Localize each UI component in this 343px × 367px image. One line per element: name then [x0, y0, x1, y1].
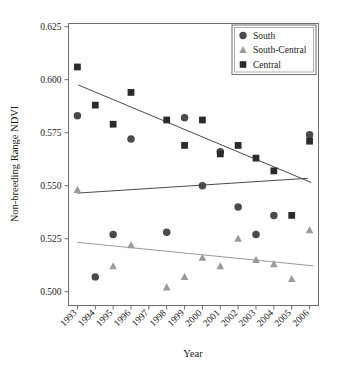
- x-axis-title: Year: [183, 348, 203, 359]
- trend-lines: [77, 85, 313, 266]
- data-point: [163, 117, 170, 124]
- data-point: [306, 226, 314, 233]
- legend-marker-icon: [240, 61, 247, 68]
- data-point: [270, 212, 277, 219]
- data-point: [235, 142, 242, 149]
- x-tick-label: 2005: [273, 308, 294, 329]
- data-point: [306, 138, 313, 145]
- data-point: [217, 262, 225, 269]
- x-tick-label: 1997: [130, 308, 151, 329]
- data-point: [74, 112, 81, 119]
- y-tick-label: 0.625: [40, 22, 62, 32]
- data-point: [109, 231, 116, 238]
- data-point: [181, 114, 188, 121]
- y-axis-title: Non-breeding Range NDVI: [9, 105, 20, 222]
- y-tick-label: 0.550: [40, 181, 62, 191]
- scatter-plot: 0.5000.5250.5500.5750.6000.625 199319941…: [0, 0, 343, 367]
- y-tick-label: 0.600: [40, 75, 62, 85]
- x-tick-label: 2002: [219, 308, 240, 329]
- x-tick-label: 2003: [237, 308, 258, 329]
- x-tick-label: 1994: [76, 308, 97, 329]
- x-tick-label: 1996: [112, 308, 133, 329]
- data-point: [127, 135, 134, 142]
- x-axis-ticks: [77, 306, 309, 310]
- data-point: [127, 241, 135, 248]
- data-point: [110, 121, 117, 128]
- y-tick-label: 0.575: [40, 128, 62, 138]
- legend-item-label: South: [253, 31, 275, 41]
- trend-line: [77, 178, 307, 193]
- x-tick-label: 1993: [58, 308, 79, 329]
- y-tick-label: 0.500: [40, 287, 62, 297]
- data-point: [181, 142, 188, 149]
- series-central: [74, 64, 313, 219]
- chart-figure: 0.5000.5250.5500.5750.6000.625 199319941…: [0, 0, 343, 367]
- y-axis-tick-labels: 0.5000.5250.5500.5750.6000.625: [40, 22, 62, 297]
- x-tick-label: 2004: [255, 308, 276, 329]
- series-south: [74, 112, 314, 281]
- data-point: [306, 131, 313, 138]
- data-point: [92, 102, 99, 109]
- chart-legend: SouthSouth-CentralCentral: [232, 25, 316, 75]
- y-axis-ticks: [65, 27, 69, 292]
- data-point: [270, 167, 277, 174]
- x-tick-label: 1998: [148, 308, 169, 329]
- data-point: [109, 262, 117, 269]
- legend-item-label: Central: [253, 60, 281, 70]
- x-tick-label: 1999: [165, 308, 186, 329]
- data-point: [181, 273, 189, 280]
- series-south-central: [74, 186, 314, 291]
- data-point: [253, 155, 260, 162]
- data-point: [270, 260, 278, 267]
- data-point: [74, 186, 82, 193]
- data-point: [163, 283, 171, 290]
- x-tick-label: 2001: [201, 308, 222, 329]
- trend-line: [77, 242, 313, 266]
- data-point: [92, 273, 99, 280]
- legend-item-label: South-Central: [253, 45, 307, 55]
- y-tick-label: 0.525: [40, 234, 62, 244]
- legend-marker-icon: [239, 32, 246, 39]
- data-point: [234, 203, 241, 210]
- data-point: [199, 182, 206, 189]
- x-tick-label: 2006: [290, 308, 311, 329]
- data-point: [199, 117, 206, 124]
- data-point: [217, 151, 224, 158]
- data-point: [288, 275, 296, 282]
- x-tick-label: 1995: [94, 308, 115, 329]
- data-point: [163, 229, 170, 236]
- data-point: [252, 231, 259, 238]
- data-point: [74, 64, 81, 71]
- data-point: [128, 89, 135, 96]
- x-tick-label: 2000: [183, 308, 204, 329]
- data-point: [234, 235, 242, 242]
- x-axis-tick-labels: 1993199419951996199719981999200020012002…: [58, 308, 311, 329]
- data-point: [288, 212, 295, 219]
